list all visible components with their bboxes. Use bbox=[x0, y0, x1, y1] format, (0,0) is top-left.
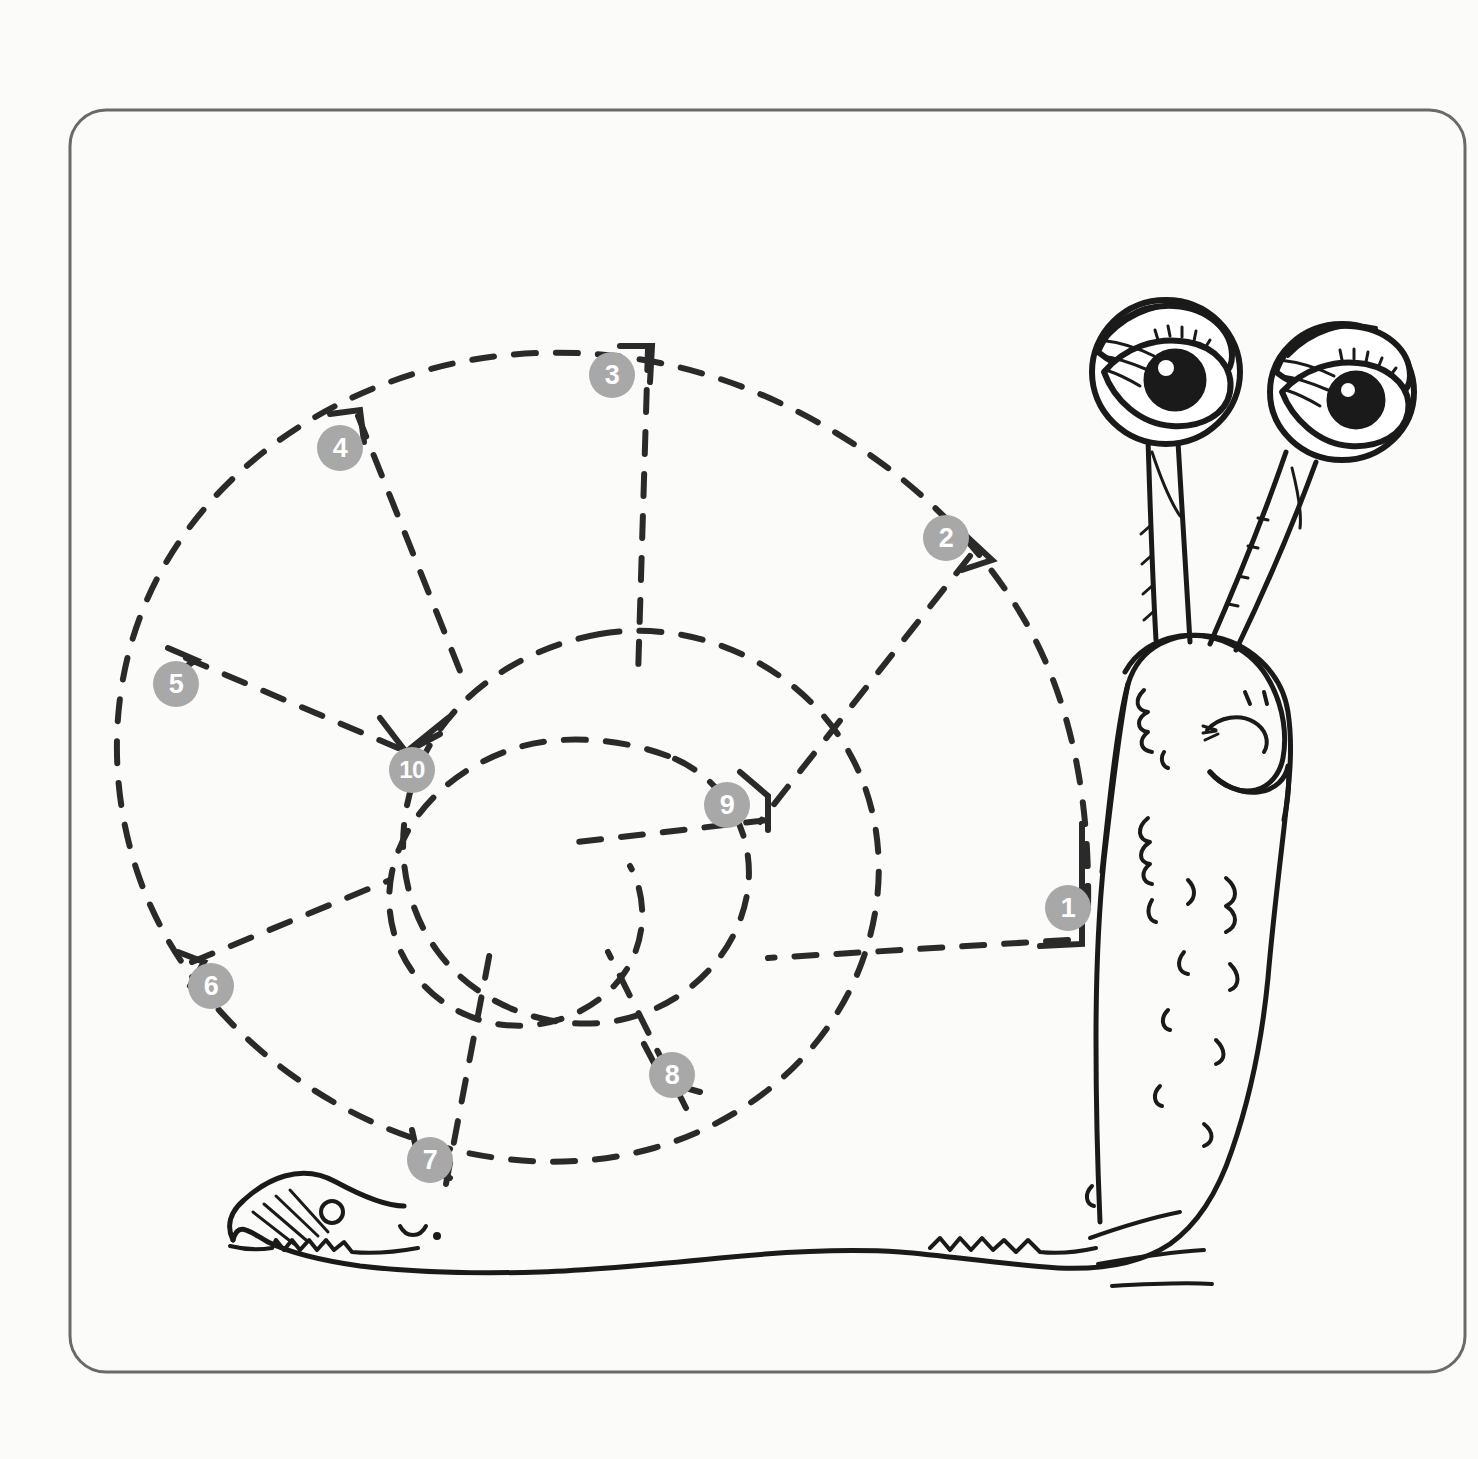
body-texture-1 bbox=[1138, 690, 1152, 752]
body-texture-13 bbox=[1087, 1186, 1094, 1206]
page-border bbox=[70, 110, 1465, 1372]
ground-scuff-line-3 bbox=[1112, 1283, 1212, 1286]
dot-marker-6[interactable]: 6 bbox=[188, 963, 234, 1009]
left-eyestalk-right bbox=[1178, 442, 1190, 642]
snail-nostril-right bbox=[1264, 692, 1267, 704]
dot-marker-3[interactable]: 3 bbox=[589, 352, 635, 398]
shell-spoke-dot6[interactable] bbox=[192, 880, 390, 962]
tail-spot-circle bbox=[321, 1201, 343, 1223]
tail-dot bbox=[433, 1232, 441, 1240]
snail-tail-flap bbox=[230, 1240, 418, 1253]
shell-tracing-guide[interactable] bbox=[117, 346, 1088, 1184]
body-texture-7 bbox=[1179, 952, 1188, 974]
body-texture-6 bbox=[1149, 900, 1156, 922]
shell-whorl-outer[interactable] bbox=[117, 353, 1088, 1162]
body-texture-2 bbox=[1140, 818, 1152, 884]
dot-marker-4[interactable]: 4 bbox=[317, 425, 363, 471]
dot-marker-8[interactable]: 8 bbox=[649, 1052, 695, 1098]
shell-spoke-dot5[interactable] bbox=[186, 658, 398, 748]
snail-illustration bbox=[0, 0, 1478, 1459]
body-texture-4 bbox=[1188, 880, 1194, 904]
body-texture-12 bbox=[1204, 1124, 1212, 1146]
snail-nostril-left bbox=[1245, 692, 1250, 704]
ground-scuff-line-1 bbox=[1090, 1212, 1180, 1238]
right-eye-highlight bbox=[1341, 383, 1355, 397]
tail-closed-eye bbox=[400, 1226, 426, 1235]
body-texture-9 bbox=[1163, 1010, 1170, 1030]
left-eyestalk-inner-line bbox=[1152, 452, 1180, 516]
snail-foot-hem bbox=[930, 1238, 1096, 1253]
body-texture-10 bbox=[1216, 1040, 1224, 1064]
right-eye-iris bbox=[1328, 372, 1384, 428]
dot-marker-9[interactable]: 9 bbox=[704, 782, 750, 828]
body-texture-3 bbox=[1162, 752, 1168, 768]
body-texture-11 bbox=[1155, 1086, 1162, 1106]
body-texture-5 bbox=[1226, 878, 1235, 932]
dot-marker-2[interactable]: 2 bbox=[923, 515, 969, 561]
body-texture-8 bbox=[1230, 964, 1238, 990]
shell-spoke-dot2[interactable] bbox=[760, 556, 970, 822]
tail-hatch-2 bbox=[264, 1204, 306, 1240]
snail-tail-upper bbox=[230, 1173, 404, 1240]
left-eye-highlight bbox=[1158, 360, 1174, 376]
dot-marker-7[interactable]: 7 bbox=[407, 1137, 453, 1183]
shell-whorl-second[interactable] bbox=[403, 634, 749, 1024]
dot-marker-10[interactable]: 10 bbox=[389, 747, 435, 793]
dot-marker-5[interactable]: 5 bbox=[153, 661, 199, 707]
shell-spoke-dot4[interactable] bbox=[358, 416, 462, 676]
shell-spoke-dot1[interactable] bbox=[768, 940, 1068, 958]
left-eyestalk bbox=[1148, 440, 1156, 640]
dot-marker-1[interactable]: 1 bbox=[1045, 885, 1091, 931]
left-eye-iris bbox=[1145, 350, 1205, 410]
shell-spoke-dot3[interactable] bbox=[638, 348, 648, 676]
right-eyestalk bbox=[1210, 452, 1286, 644]
worksheet-page: 1 2 3 4 5 6 7 8 9 10 bbox=[0, 0, 1478, 1459]
snail-mouth-corner bbox=[1203, 726, 1218, 740]
